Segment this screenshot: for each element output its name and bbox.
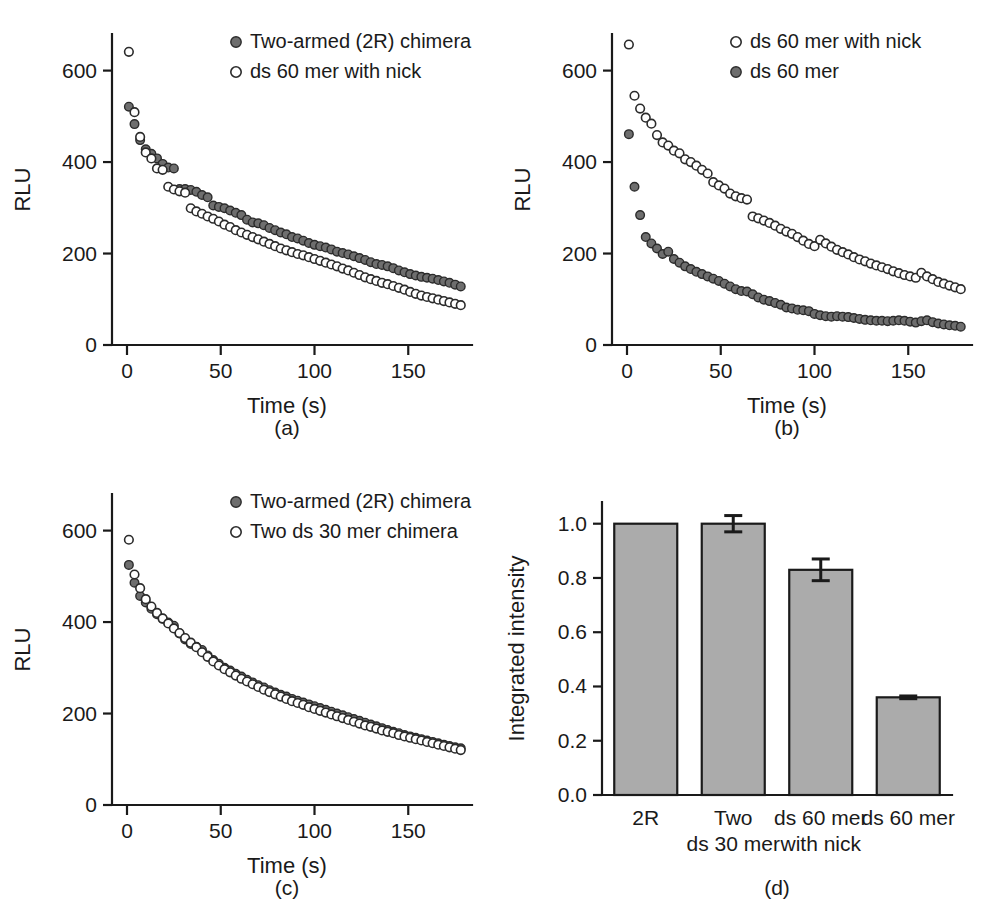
x-category-label: ds 30 mer — [687, 832, 780, 855]
legend: Two-armed (2R) chimeraTwo ds 30 mer chim… — [231, 490, 472, 542]
y-axis-title: RLU — [10, 627, 35, 671]
x-tick-label: 0 — [121, 359, 133, 382]
x-tick-label: 50 — [709, 359, 732, 382]
bar — [702, 524, 765, 795]
data-point — [130, 108, 139, 117]
data-point — [630, 91, 639, 100]
data-point — [636, 104, 645, 113]
data-point — [956, 285, 965, 294]
x-axis-title: Time (s) — [247, 853, 327, 878]
figure-container: 0200400600050100150RLUTime (s)Two-armed … — [0, 0, 1000, 922]
data-point — [956, 322, 965, 331]
y-tick-label: 0 — [585, 333, 597, 356]
panel-label: (c) — [275, 876, 300, 899]
panel-b-chart: 0200400600050100150RLUTime (s)ds 60 mer … — [500, 0, 1000, 460]
data-point — [456, 282, 465, 291]
x-category-label: ds 60 mer — [862, 806, 955, 829]
series-2-markers — [125, 535, 465, 754]
data-point — [130, 570, 139, 579]
legend-label: ds 60 mer with nick — [250, 60, 422, 82]
panel-label: (d) — [764, 876, 790, 899]
data-point — [147, 154, 156, 163]
y-tick-label: 0.8 — [558, 566, 587, 589]
legend: Two-armed (2R) chimerads 60 mer with nic… — [231, 30, 472, 82]
data-point — [170, 164, 179, 173]
y-tick-label: 0.4 — [558, 674, 588, 697]
data-point — [630, 182, 639, 191]
y-tick-label: 0 — [85, 793, 97, 816]
data-point — [158, 166, 167, 175]
data-point — [625, 130, 634, 139]
y-tick-label: 1.0 — [558, 512, 587, 535]
x-axis-title: Time (s) — [247, 393, 327, 418]
y-axis-title: RLU — [10, 167, 35, 211]
data-point — [625, 40, 634, 49]
y-tick-label: 600 — [62, 59, 97, 82]
x-tick-label: 150 — [391, 819, 426, 842]
legend-label: ds 60 mer with nick — [750, 30, 922, 52]
open-circle-icon — [231, 67, 241, 77]
open-circle-icon — [231, 527, 241, 537]
y-tick-label: 600 — [562, 59, 597, 82]
panel-a: 0200400600050100150RLUTime (s)Two-armed … — [0, 0, 500, 460]
y-tick-label: 0.2 — [558, 729, 587, 752]
y-tick-label: 200 — [62, 702, 97, 725]
x-tick-label: 100 — [797, 359, 832, 382]
data-point — [125, 561, 134, 570]
y-tick-label: 0.0 — [558, 783, 587, 806]
y-tick-label: 400 — [62, 610, 97, 633]
x-tick-label: 50 — [209, 359, 232, 382]
series-2-markers — [125, 48, 465, 310]
x-axis-title: Time (s) — [747, 393, 827, 418]
legend-label: Two ds 30 mer chimera — [250, 520, 459, 542]
panel-d: 0.00.20.40.60.81.0Integrated intensity2R… — [500, 460, 1000, 922]
y-axis-title: RLU — [510, 167, 535, 211]
panel-a-chart: 0200400600050100150RLUTime (s)Two-armed … — [0, 0, 500, 460]
filled-circle-icon — [731, 67, 741, 77]
x-tick-label: 150 — [391, 359, 426, 382]
data-point — [703, 169, 712, 178]
panel-b: 0200400600050100150RLUTime (s)ds 60 mer … — [500, 0, 1000, 460]
bar — [614, 524, 677, 795]
data-point — [636, 211, 645, 220]
legend: ds 60 mer with nickds 60 mer — [731, 30, 922, 82]
panel-label: (b) — [774, 416, 800, 439]
y-tick-label: 200 — [62, 242, 97, 265]
legend-label: Two-armed (2R) chimera — [250, 30, 472, 52]
legend-label: ds 60 mer — [750, 60, 839, 82]
data-point — [136, 584, 145, 593]
y-tick-label: 0.6 — [558, 620, 587, 643]
data-point — [664, 247, 673, 256]
x-tick-label: 100 — [297, 819, 332, 842]
x-category-label: Two — [714, 806, 753, 829]
y-tick-label: 200 — [562, 242, 597, 265]
filled-circle-icon — [231, 37, 241, 47]
data-point — [456, 746, 465, 755]
y-tick-label: 400 — [62, 150, 97, 173]
x-category-label: ds 60 mer — [774, 806, 867, 829]
filled-circle-icon — [231, 497, 241, 507]
x-tick-label: 0 — [621, 359, 633, 382]
x-tick-label: 50 — [209, 819, 232, 842]
data-point — [125, 535, 134, 544]
y-tick-label: 0 — [85, 333, 97, 356]
open-circle-icon — [731, 37, 741, 47]
data-point — [130, 120, 139, 129]
bar — [789, 570, 852, 795]
data-point — [203, 193, 212, 202]
x-tick-label: 0 — [121, 819, 133, 842]
data-point — [125, 48, 134, 57]
y-tick-label: 600 — [62, 519, 97, 542]
data-point — [647, 119, 656, 128]
panel-c-chart: 0200400600050100150RLUTime (s)Two-armed … — [0, 460, 500, 922]
x-category-label: with nick — [779, 832, 861, 855]
x-tick-label: 150 — [891, 359, 926, 382]
data-point — [181, 188, 190, 197]
y-axis-title: Integrated intensity — [504, 556, 529, 742]
x-tick-label: 100 — [297, 359, 332, 382]
panel-d-chart: 0.00.20.40.60.81.0Integrated intensity2R… — [500, 460, 1000, 922]
legend-label: Two-armed (2R) chimera — [250, 490, 472, 512]
data-point — [456, 301, 465, 310]
x-category-label: 2R — [632, 806, 659, 829]
panel-c: 0200400600050100150RLUTime (s)Two-armed … — [0, 460, 500, 922]
